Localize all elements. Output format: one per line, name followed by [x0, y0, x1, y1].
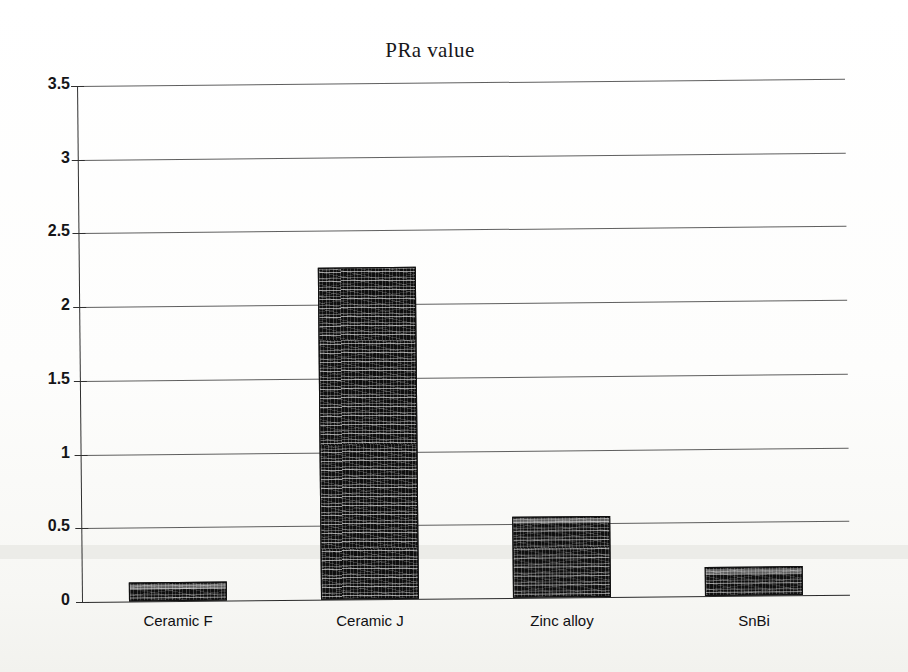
y-axis-label: 1.5 [26, 370, 70, 388]
gridlines-group [77, 79, 845, 86]
y-axis-line [77, 86, 83, 602]
x-axis-label: SnBi [658, 612, 850, 629]
y-axis-tick [74, 381, 87, 382]
bar-texture [513, 517, 610, 597]
x-axis-label: Ceramic F [82, 612, 274, 629]
bar-top-highlight [513, 518, 609, 524]
bar-top-highlight [130, 583, 226, 589]
bar [705, 566, 803, 596]
bar-top-highlight [706, 568, 802, 574]
bar-texture [706, 567, 802, 595]
gridline [77, 79, 845, 87]
y-axis-label: 1 [26, 444, 70, 462]
y-axis-label: 0.5 [26, 517, 70, 535]
y-axis-label: 3 [26, 149, 70, 167]
y-axis-tick [72, 160, 85, 161]
gridline [78, 152, 846, 160]
y-axis-tick [75, 455, 88, 456]
gridline [79, 300, 847, 308]
gridline [81, 447, 849, 455]
bar-texture [130, 582, 226, 600]
y-axis-tick [71, 86, 84, 87]
y-axis-tick [72, 233, 85, 234]
y-axis-label: 3.5 [26, 75, 70, 93]
y-axis-tick [76, 602, 89, 603]
y-axis-label: 2.5 [26, 222, 70, 240]
y-axis-label: 2 [26, 296, 70, 314]
plot-area [82, 86, 850, 602]
chart-title: PRa value [0, 38, 860, 63]
gridline [81, 521, 849, 529]
y-axis-label: 0 [26, 591, 70, 609]
x-axis-label: Zinc alloy [466, 612, 658, 629]
y-axis-tick [75, 528, 88, 529]
gridline [78, 226, 846, 234]
y-axis-tick [73, 307, 86, 308]
chart-page: PRa value 00.511.522.533.5 Ceramic FCera… [0, 0, 908, 672]
gridline [80, 373, 848, 381]
bar [318, 267, 419, 600]
x-axis-label: Ceramic J [274, 612, 466, 629]
bar [512, 516, 611, 598]
bar-texture [319, 268, 418, 599]
plot-skew-wrapper [77, 79, 850, 602]
bar [129, 581, 227, 601]
